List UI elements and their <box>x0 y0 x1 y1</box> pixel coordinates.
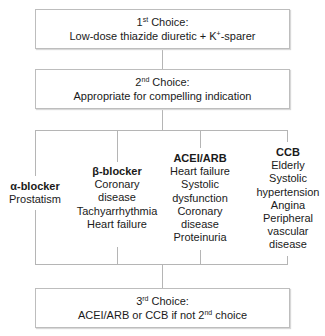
first-choice-text: Low-dose thiazide diuretic + K+-sparer <box>36 29 289 43</box>
second-choice-title: 2nd Choice: <box>36 75 289 89</box>
branch-beta-blocker: β-blocker Coronary disease Tachyarrhythm… <box>72 165 162 231</box>
branch-acei-arb: ACEI/ARB Heart failure Systolic dysfunct… <box>162 152 238 244</box>
third-choice-box: 3rd Choice: ACEI/ARB or CCB if not 2nd c… <box>35 288 290 328</box>
second-choice-box: 2nd Choice: Appropriate for compelling i… <box>35 69 290 109</box>
first-choice-title: 1st Choice: <box>36 15 289 29</box>
branch-acei-bottom <box>200 250 201 265</box>
second-choice-text: Appropriate for compelling indication <box>36 89 289 103</box>
branch-top-bar <box>35 130 288 131</box>
branch-ccb: CCB Elderly Systolic hypertension Angina… <box>252 146 324 252</box>
branch-alpha-top <box>35 130 36 176</box>
branch-ccb-top <box>287 130 288 142</box>
branch-alpha-bottom <box>35 210 36 265</box>
branch-alpha-blocker: α-blocker Prostatism <box>0 180 70 206</box>
branch-beta-top <box>117 130 118 162</box>
connector-1-2 <box>162 49 163 69</box>
branch-head: CCB <box>252 146 324 159</box>
branch-beta-bottom <box>117 247 118 265</box>
first-choice-box: 1st Choice: Low-dose thiazide diuretic +… <box>35 9 290 49</box>
third-choice-title: 3rd Choice: <box>36 294 289 308</box>
connector-branch-3 <box>162 264 163 288</box>
branch-acei-top <box>200 130 201 148</box>
branch-head: α-blocker <box>0 180 70 193</box>
branch-head: β-blocker <box>72 165 162 178</box>
connector-2-branch <box>162 108 163 131</box>
third-choice-text: ACEI/ARB or CCB if not 2nd choice <box>36 308 289 322</box>
branch-head: ACEI/ARB <box>162 152 238 165</box>
